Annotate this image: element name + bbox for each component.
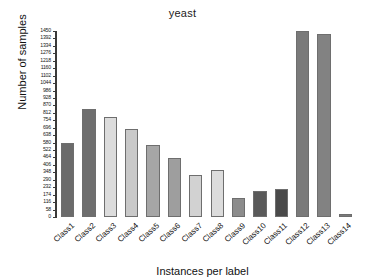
x-axis-tick-labels: Class1Class2Class3Class4Class5Class6Clas… bbox=[0, 0, 365, 280]
x-axis-label: Instances per label bbox=[40, 265, 365, 277]
bar-chart: yeast Number of samples 0581161742322903… bbox=[0, 0, 365, 280]
